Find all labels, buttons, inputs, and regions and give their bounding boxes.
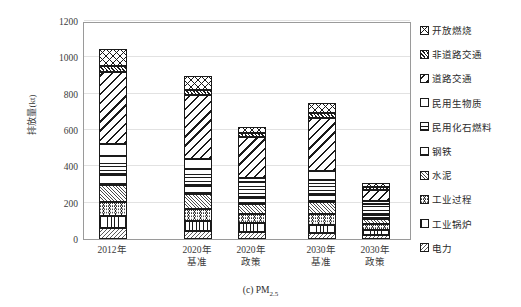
y-tick-label: 1000 xyxy=(38,53,78,63)
legend-item-电力[interactable]: 电力 xyxy=(420,236,521,260)
bar-segment-民用生物质 xyxy=(185,159,211,169)
bar-segment-民用化石燃料 xyxy=(363,204,389,215)
gridline xyxy=(84,56,410,57)
chart-figure: 排放量(kt) 020040060080010001200 2012年2020年… xyxy=(0,0,521,307)
x-tick-label: 2020年政策 xyxy=(216,245,286,268)
plot-area xyxy=(83,22,411,240)
legend-swatch-icon xyxy=(420,243,429,252)
legend-label: 钢铁 xyxy=(432,144,452,158)
legend-label: 民用生物质 xyxy=(432,96,482,110)
bar-segment-钢铁 xyxy=(100,175,126,184)
x-tick-line: 2020年 xyxy=(216,245,286,257)
bar-2020年政策[interactable] xyxy=(238,127,266,239)
bar-segment-民用生物质 xyxy=(100,144,126,157)
bar-segment-开放燃烧 xyxy=(185,76,211,89)
bar-segment-工业锅炉 xyxy=(185,221,211,232)
bar-segment-水泥 xyxy=(309,202,335,215)
bar-segment-开放燃烧 xyxy=(100,49,126,66)
y-tick-label: 400 xyxy=(38,162,78,172)
y-tick-label: 200 xyxy=(38,199,78,209)
caption-subscript: 2.5 xyxy=(269,290,278,298)
y-tick-label: 800 xyxy=(38,90,78,100)
y-tick-label: 600 xyxy=(38,126,78,136)
bar-2012年[interactable] xyxy=(99,49,127,239)
bar-segment-水泥 xyxy=(100,185,126,202)
bar-segment-电力 xyxy=(309,233,335,239)
bar-segment-开放燃烧 xyxy=(239,127,265,134)
legend-label: 工业锅炉 xyxy=(432,217,472,231)
bar-segment-工业锅炉 xyxy=(309,225,335,233)
gridline xyxy=(84,20,410,21)
bar-segment-民用化石燃料 xyxy=(309,180,335,195)
bar-segment-工业过程 xyxy=(239,214,265,224)
legend-label: 开放燃烧 xyxy=(432,23,472,37)
legend-item-非道路交通[interactable]: 非道路交通 xyxy=(420,42,521,66)
bar-segment-道路交通 xyxy=(363,190,389,201)
bar-segment-水泥 xyxy=(239,204,265,213)
x-tick-label: 2012年 xyxy=(77,245,147,257)
bar-segment-民用生物质 xyxy=(309,171,335,180)
legend-item-民用生物质[interactable]: 民用生物质 xyxy=(420,91,521,115)
legend-label: 民用化石燃料 xyxy=(432,120,492,134)
chart-legend: 开放燃烧非道路交通道路交通民用生物质民用化石燃料钢铁水泥工业过程工业锅炉电力 xyxy=(420,18,521,260)
figure-caption: (c) PM2.5 xyxy=(0,285,521,298)
legend-label: 水泥 xyxy=(432,168,452,182)
bar-segment-民用化石燃料 xyxy=(100,156,126,175)
bar-2020年基准[interactable] xyxy=(184,76,212,239)
legend-swatch-icon xyxy=(420,122,429,131)
legend-item-工业锅炉[interactable]: 工业锅炉 xyxy=(420,212,521,236)
bar-segment-道路交通 xyxy=(185,95,211,160)
y-tick-label: 0 xyxy=(38,235,78,245)
y-axis-title: 排放量(kt) xyxy=(25,60,38,170)
bar-2030年基准[interactable] xyxy=(308,103,336,239)
legend-label: 道路交通 xyxy=(432,71,472,85)
legend-label: 非道路交通 xyxy=(432,47,482,61)
bar-segment-民用化石燃料 xyxy=(239,182,265,198)
legend-swatch-icon xyxy=(420,195,429,204)
bar-segment-工业锅炉 xyxy=(100,216,126,228)
bar-segment-电力 xyxy=(185,231,211,239)
x-tick-line: 2012年 xyxy=(77,245,147,257)
x-tick-line: 政策 xyxy=(340,257,410,269)
legend-swatch-icon xyxy=(420,147,429,156)
x-tick-line: 政策 xyxy=(216,257,286,269)
bar-segment-水泥 xyxy=(185,194,211,209)
legend-item-民用化石燃料[interactable]: 民用化石燃料 xyxy=(420,115,521,139)
legend-swatch-icon xyxy=(420,74,429,83)
legend-swatch-icon xyxy=(420,171,429,180)
bar-2030年政策[interactable] xyxy=(362,183,390,239)
bar-segment-道路交通 xyxy=(309,118,335,172)
legend-label: 工业过程 xyxy=(432,192,472,206)
x-tick-label: 2030年政策 xyxy=(340,245,410,268)
legend-label: 电力 xyxy=(432,241,452,255)
legend-swatch-icon xyxy=(420,26,429,35)
bar-segment-开放燃烧 xyxy=(309,103,335,113)
caption-text: (c) PM xyxy=(243,285,270,295)
bar-segment-工业锅炉 xyxy=(239,223,265,232)
legend-swatch-icon xyxy=(420,50,429,59)
bar-segment-民用化石燃料 xyxy=(185,169,211,186)
legend-swatch-icon xyxy=(420,98,429,107)
y-tick-label: 1200 xyxy=(38,17,78,27)
bar-segment-钢铁 xyxy=(185,186,211,194)
legend-item-钢铁[interactable]: 钢铁 xyxy=(420,139,521,163)
x-tick-line: 2030年 xyxy=(340,245,410,257)
gridline xyxy=(84,93,410,94)
bar-segment-工业过程 xyxy=(309,214,335,225)
bar-segment-电力 xyxy=(100,228,126,239)
legend-item-工业过程[interactable]: 工业过程 xyxy=(420,187,521,211)
legend-item-开放燃烧[interactable]: 开放燃烧 xyxy=(420,18,521,42)
legend-swatch-icon xyxy=(420,219,429,228)
legend-item-水泥[interactable]: 水泥 xyxy=(420,163,521,187)
bar-segment-道路交通 xyxy=(239,137,265,178)
bar-segment-工业过程 xyxy=(100,202,126,217)
bar-segment-工业过程 xyxy=(185,209,211,221)
bar-segment-电力 xyxy=(239,232,265,239)
bar-segment-电力 xyxy=(363,235,389,239)
legend-item-道路交通[interactable]: 道路交通 xyxy=(420,66,521,90)
bar-segment-道路交通 xyxy=(100,72,126,144)
